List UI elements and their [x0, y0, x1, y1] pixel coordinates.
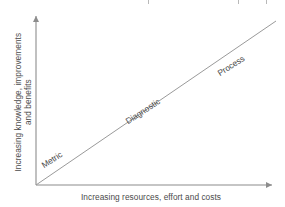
- y-axis-label: Increasing knowledge, improvements and b…: [13, 17, 33, 187]
- y-axis-label-line-2: and benefits: [23, 17, 33, 187]
- clipped-caption-mark: [266, 0, 267, 4]
- diagram-svg: [0, 0, 285, 207]
- clipped-caption-mark: [238, 0, 239, 4]
- clipped-caption-mark: [148, 0, 149, 4]
- diagram-canvas: Increasing knowledge, improvements and b…: [0, 0, 285, 207]
- x-axis-label: Increasing resources, effort and costs: [36, 192, 266, 202]
- y-axis-label-line-1: Increasing knowledge, improvements: [13, 17, 23, 187]
